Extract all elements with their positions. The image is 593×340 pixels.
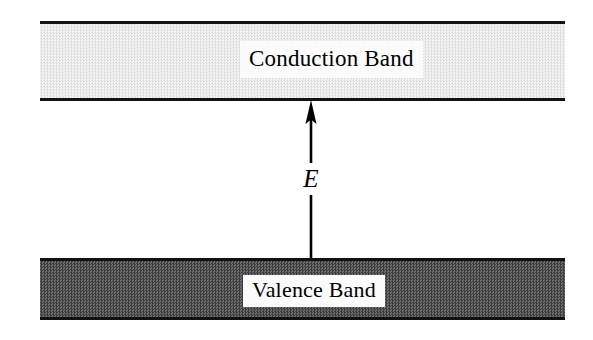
transition-arrow-head <box>306 100 317 124</box>
conduction-band-label: Conduction Band <box>240 41 423 78</box>
valence-band-label: Valence Band <box>243 275 385 307</box>
band-diagram-figure: Conduction Band Valence Band E <box>0 0 593 340</box>
conduction-band-top-edge <box>40 21 565 24</box>
valence-band-bottom-edge <box>40 317 565 320</box>
valence-band-top-edge <box>40 258 565 261</box>
conduction-band-bottom-edge <box>40 98 565 101</box>
energy-label: E <box>296 163 326 195</box>
